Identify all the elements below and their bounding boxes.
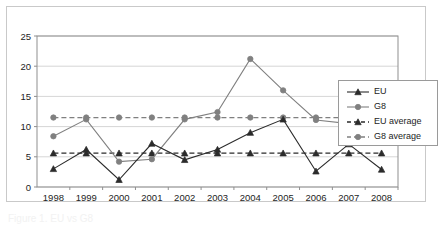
data-point-marker: [248, 56, 253, 61]
series-g8-average: [51, 115, 385, 120]
chart-legend: EUG8EU averageG8 average: [338, 80, 438, 146]
data-point-marker: [116, 159, 121, 164]
y-axis-tick-label: 20: [20, 61, 31, 72]
y-axis-tick-label: 25: [20, 31, 31, 42]
x-axis-tick-label: 2000: [108, 192, 129, 203]
x-axis-tick-label: 2005: [273, 192, 294, 203]
x-axis-tick-label: 2008: [371, 192, 392, 203]
data-point-marker: [214, 146, 220, 152]
x-axis-tick-label: 2007: [338, 192, 359, 203]
data-point-marker: [149, 157, 154, 162]
legend-label: EU average: [374, 116, 422, 126]
data-point-marker: [84, 117, 89, 122]
data-point-marker: [355, 134, 360, 139]
legend-item-g8[interactable]: G8: [347, 101, 386, 111]
data-point-marker: [182, 117, 187, 122]
legend-item-eu[interactable]: EU: [347, 86, 387, 96]
x-axis-tick-label: 2004: [240, 192, 261, 203]
caption-text: Figure 1. EU vs G8: [8, 212, 308, 226]
data-point-marker: [149, 140, 155, 146]
data-point-marker: [51, 115, 56, 120]
x-axis-tick-label: 1999: [76, 192, 97, 203]
data-point-marker: [83, 146, 89, 152]
legend-item-eu-average[interactable]: EU average: [347, 116, 422, 126]
data-point-marker: [247, 129, 253, 135]
legend-label: G8: [374, 101, 386, 111]
data-point-marker: [50, 166, 56, 172]
data-point-marker: [355, 104, 360, 109]
data-point-marker: [51, 134, 56, 139]
y-axis-tick-label: 0: [26, 182, 31, 193]
data-point-marker: [280, 88, 285, 93]
legend-label: G8 average: [374, 131, 421, 141]
data-point-marker: [313, 117, 318, 122]
data-point-marker: [378, 150, 384, 156]
x-axis-tick-label: 1998: [43, 192, 64, 203]
figure-caption: Figure 1. EU vs G8: [8, 212, 308, 226]
data-point-marker: [248, 115, 253, 120]
data-point-marker: [116, 115, 121, 120]
x-axis-tick-label: 2002: [174, 192, 195, 203]
x-axis-tick-label: 2006: [305, 192, 326, 203]
x-axis-tick-label: 2003: [207, 192, 228, 203]
figure-frame: 0510152025199819992000200120022003200420…: [6, 6, 426, 202]
legend-content: EUG8EU averageG8 average: [339, 81, 439, 147]
data-point-marker: [149, 115, 154, 120]
y-axis-tick-label: 5: [26, 151, 31, 162]
y-axis-tick-label: 10: [20, 121, 31, 132]
x-axis-tick-label: 2001: [141, 192, 162, 203]
legend-item-g8-average[interactable]: G8 average: [347, 131, 421, 141]
y-axis-tick-label: 15: [20, 91, 31, 102]
legend-label: EU: [374, 86, 387, 96]
data-point-marker: [215, 109, 220, 114]
data-point-marker: [215, 115, 220, 120]
